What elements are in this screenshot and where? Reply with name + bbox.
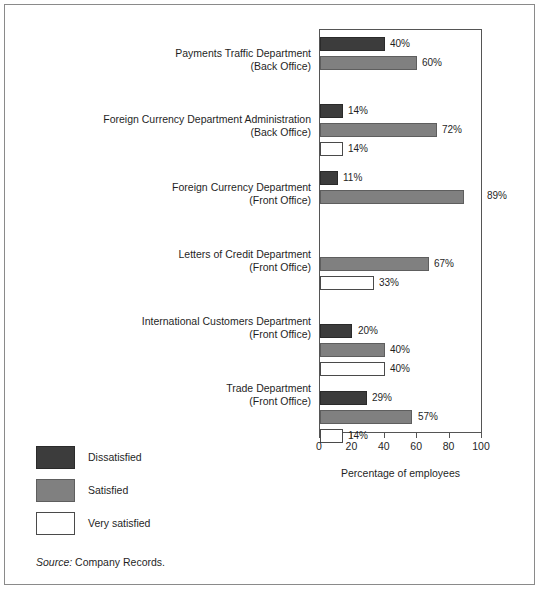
bar-payments-traffic-satisfied[interactable]	[320, 56, 417, 70]
category-label-line2: (Front Office)	[172, 194, 311, 207]
category-label-line2: (Back Office)	[103, 126, 311, 139]
x-tick-60	[416, 433, 417, 438]
category-label-line1: Letters of Credit Department	[179, 248, 311, 261]
category-label-line2: (Front Office)	[226, 395, 311, 408]
x-tick-label-0: 0	[316, 440, 322, 453]
category-label-letters-of-credit: Letters of Credit Department (Front Offi…	[179, 248, 311, 274]
bar-trade-satisfied[interactable]	[320, 410, 412, 424]
legend-swatch-satisfied	[36, 479, 75, 502]
bar-trade-dissatisfied[interactable]	[320, 391, 367, 405]
bar-payments-traffic-dissatisfied[interactable]	[320, 37, 385, 51]
bar-value-trade-satisfied: 57%	[418, 410, 438, 424]
x-tick-0	[319, 433, 320, 438]
bar-foreign-currency-satisfied[interactable]	[320, 190, 464, 204]
category-label-line1: Payments Traffic Department	[175, 47, 311, 60]
category-label-line1: Foreign Currency Department	[172, 181, 311, 194]
legend-label-satisfied: Satisfied	[88, 484, 128, 497]
category-label-foreign-currency: Foreign Currency Department (Front Offic…	[172, 181, 311, 207]
source-note: Source: Company Records.	[36, 556, 165, 568]
bar-value-foreign-currency-satisfied: 89%	[487, 189, 507, 203]
category-label-trade: Trade Department (Front Office)	[226, 382, 311, 408]
category-label-line2: (Back Office)	[175, 60, 311, 73]
source-label: Source:	[36, 556, 72, 568]
category-label-line2: (Front Office)	[179, 261, 311, 274]
category-label-line1: Foreign Currency Department Administrati…	[103, 113, 311, 126]
legend-label-dissatisfied: Dissatisfied	[88, 451, 142, 464]
category-label-payments-traffic: Payments Traffic Department (Back Office…	[175, 47, 311, 73]
bar-value-letters-of-credit-very-satisfied: 33%	[379, 276, 399, 290]
source-text: Company Records.	[75, 556, 165, 568]
bar-value-fc-admin-satisfied: 72%	[442, 123, 462, 137]
x-axis-title: Percentage of employees	[319, 467, 482, 479]
bars-layer: 40% 60% 14% 72% 14% 11% 67% 33% 20% 40% …	[320, 30, 481, 432]
figure-container: Payments Traffic Department (Back Office…	[4, 4, 535, 585]
bar-value-international-customers-very-satisfied: 40%	[390, 362, 410, 376]
x-tick-40	[384, 433, 385, 438]
category-label-international-customers: International Customers Department (Fron…	[142, 315, 311, 341]
x-axis: 0 20 40 60 80 100	[319, 433, 482, 467]
x-tick-100	[481, 433, 482, 438]
bar-value-letters-of-credit-satisfied: 67%	[434, 257, 454, 271]
bar-value-fc-admin-very-satisfied: 14%	[348, 142, 368, 156]
legend-swatch-very-satisfied	[36, 512, 75, 535]
bar-value-international-customers-satisfied: 40%	[390, 343, 410, 357]
x-tick-label-80: 80	[443, 440, 455, 453]
legend-label-very-satisfied: Very satisfied	[88, 517, 150, 530]
x-tick-label-40: 40	[378, 440, 390, 453]
bar-value-foreign-currency-dissatisfied: 11%	[343, 171, 362, 185]
bar-international-customers-satisfied[interactable]	[320, 343, 385, 357]
x-tick-label-20: 20	[346, 440, 358, 453]
bar-foreign-currency-dissatisfied[interactable]	[320, 171, 338, 185]
plot-area: 40% 60% 14% 72% 14% 11% 67% 33% 20% 40% …	[319, 29, 482, 433]
bar-letters-of-credit-very-satisfied[interactable]	[320, 276, 374, 290]
legend-swatch-dissatisfied	[36, 446, 75, 469]
x-tick-label-60: 60	[410, 440, 422, 453]
bar-fc-admin-dissatisfied[interactable]	[320, 104, 343, 118]
bar-international-customers-very-satisfied[interactable]	[320, 362, 385, 376]
category-label-foreign-currency-admin: Foreign Currency Department Administrati…	[103, 113, 311, 139]
category-label-line1: International Customers Department	[142, 315, 311, 328]
bar-value-payments-traffic-satisfied: 60%	[422, 56, 442, 70]
category-label-line1: Trade Department	[226, 382, 311, 395]
bar-value-international-customers-dissatisfied: 20%	[358, 324, 378, 338]
x-tick-20	[351, 433, 352, 438]
bar-international-customers-dissatisfied[interactable]	[320, 324, 352, 338]
bar-fc-admin-very-satisfied[interactable]	[320, 142, 343, 156]
bar-letters-of-credit-satisfied[interactable]	[320, 257, 429, 271]
bar-fc-admin-satisfied[interactable]	[320, 123, 437, 137]
x-tick-label-100: 100	[472, 440, 490, 453]
bar-value-payments-traffic-dissatisfied: 40%	[390, 37, 410, 51]
bar-value-fc-admin-dissatisfied: 14%	[348, 104, 368, 118]
category-axis-labels: Payments Traffic Department (Back Office…	[65, 29, 311, 433]
x-tick-80	[449, 433, 450, 438]
bar-value-trade-dissatisfied: 29%	[372, 391, 392, 405]
category-label-line2: (Front Office)	[142, 328, 311, 341]
